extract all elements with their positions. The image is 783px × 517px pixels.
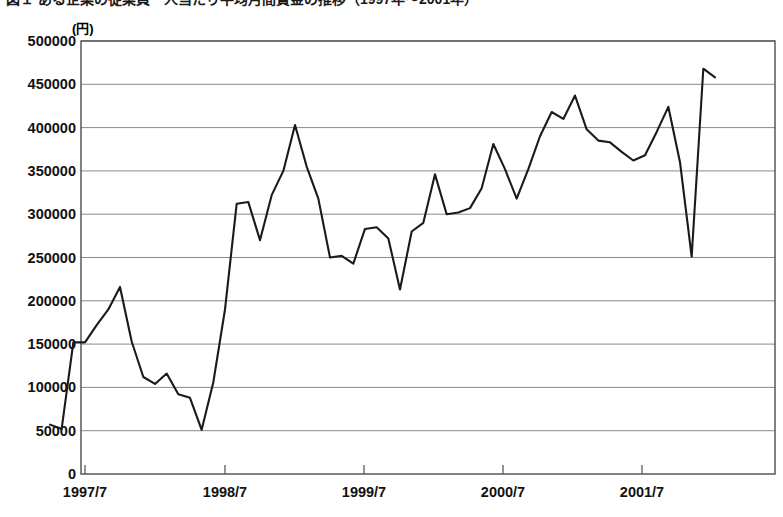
gridlines xyxy=(81,41,775,431)
chart-figure: 図１ ある企業の従業員一人当たり平均月間賃金の推移（1997年〜2001年） (… xyxy=(0,0,783,517)
x-axis-ticks xyxy=(85,465,642,474)
series-line xyxy=(50,69,715,430)
data-series-line xyxy=(50,69,715,430)
plot-area xyxy=(0,0,783,517)
